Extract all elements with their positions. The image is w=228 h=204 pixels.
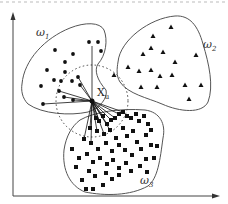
triangle-point-icon (112, 73, 117, 78)
square-point-icon (95, 129, 99, 133)
triangle-point-icon (173, 60, 178, 65)
square-point-icon (149, 143, 153, 147)
triangle-point-icon (170, 73, 175, 78)
neighbor-edge (80, 85, 92, 101)
circle-point-icon (53, 48, 57, 52)
circle-point-icon (45, 68, 49, 72)
circle-point-icon (70, 79, 74, 83)
square-point-icon (135, 140, 139, 144)
triangle-point-icon (183, 83, 188, 88)
triangle-point-icon (141, 52, 146, 57)
triangle-point-icon (161, 50, 166, 55)
triangle-point-icon (149, 68, 154, 73)
class-omega-2-points (112, 25, 204, 102)
square-point-icon (129, 116, 133, 120)
square-point-icon (101, 183, 105, 187)
square-point-icon (144, 133, 148, 137)
square-point-icon (93, 174, 97, 178)
square-point-icon (104, 171, 108, 175)
circle-point-icon (76, 75, 80, 79)
square-point-icon (101, 114, 105, 118)
square-point-icon (129, 169, 133, 173)
circle-point-icon (78, 83, 82, 87)
square-point-icon (105, 122, 109, 126)
square-point-icon (110, 177, 114, 181)
triangle-point-icon (149, 46, 154, 51)
square-point-icon (104, 141, 108, 145)
square-point-icon (109, 118, 113, 122)
square-point-icon (117, 173, 121, 177)
circle-point-icon (41, 102, 45, 106)
square-point-icon (96, 147, 100, 151)
neighbor-edge (92, 101, 123, 112)
circle-point-icon (62, 95, 66, 99)
square-point-icon (123, 148, 127, 152)
region-omega-2 (117, 16, 211, 111)
square-point-icon (102, 132, 106, 136)
square-point-icon (121, 110, 125, 114)
x-axis-arrow-icon (212, 194, 220, 199)
square-point-icon (108, 128, 112, 132)
square-point-icon (70, 147, 74, 151)
square-point-icon (111, 158, 115, 162)
square-point-icon (130, 153, 134, 157)
square-point-icon (152, 156, 156, 160)
knn-diagram: ω1 ω2 ω3 Xu (0, 0, 228, 204)
square-point-icon (85, 152, 89, 156)
square-point-icon (97, 119, 101, 123)
label-omega-3: ω3 (140, 174, 154, 189)
square-point-icon (117, 143, 121, 147)
triangle-point-icon (158, 74, 163, 79)
label-omega-2: ω2 (203, 38, 217, 53)
square-point-icon (138, 164, 142, 168)
square-point-icon (80, 178, 84, 182)
square-point-icon (117, 112, 121, 116)
square-point-icon (142, 114, 146, 118)
square-point-icon (146, 122, 150, 126)
square-point-icon (77, 156, 81, 160)
circle-point-icon (96, 40, 100, 44)
square-point-icon (91, 187, 95, 191)
triangle-point-icon (169, 25, 174, 30)
square-point-icon (110, 149, 114, 153)
square-point-icon (74, 165, 78, 169)
square-point-icon (113, 116, 117, 120)
square-point-icon (82, 137, 86, 141)
square-point-icon (144, 157, 148, 161)
square-point-icon (114, 136, 118, 140)
square-point-icon (139, 147, 143, 151)
triangle-point-icon (137, 69, 142, 74)
circle-point-icon (59, 79, 63, 83)
square-point-icon (98, 156, 102, 160)
circle-point-icon (57, 89, 61, 93)
square-point-icon (89, 141, 93, 145)
circle-point-icon (39, 84, 43, 88)
square-point-icon (117, 166, 121, 170)
square-point-icon (91, 160, 95, 164)
label-omega-1: ω1 (36, 26, 49, 41)
triangle-point-icon (151, 34, 156, 39)
square-point-icon (137, 119, 141, 123)
square-point-icon (105, 162, 109, 166)
query-point-marker (90, 99, 95, 104)
square-point-icon (149, 128, 153, 132)
square-point-icon (84, 187, 88, 191)
neighbor-edge (43, 101, 92, 104)
square-point-icon (131, 129, 135, 133)
circle-point-icon (99, 49, 103, 53)
label-query-point: Xu (97, 86, 110, 101)
square-point-icon (125, 134, 129, 138)
circle-point-icon (52, 78, 56, 82)
square-point-icon (155, 144, 159, 148)
triangle-point-icon (155, 85, 160, 90)
y-axis-arrow-icon (11, 12, 16, 20)
triangle-point-icon (187, 97, 192, 102)
circle-point-icon (71, 52, 75, 56)
square-point-icon (121, 126, 125, 130)
triangle-point-icon (194, 53, 199, 58)
square-point-icon (87, 169, 91, 173)
square-point-icon (88, 126, 92, 130)
circle-point-icon (71, 98, 75, 102)
circle-point-icon (63, 60, 67, 64)
square-point-icon (124, 161, 128, 165)
